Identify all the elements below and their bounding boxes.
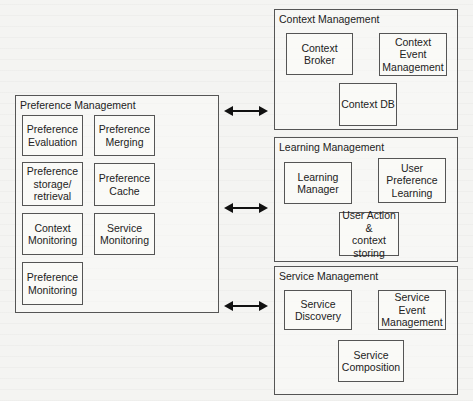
bidirectional-arrow-icon — [224, 202, 268, 214]
component-label: Preference Evaluation — [27, 123, 78, 148]
service-composition-box: Service Composition — [338, 340, 404, 382]
component-label: Service Composition — [342, 349, 400, 374]
component-label: Service Event Management — [380, 291, 444, 329]
component-label: Learning Manager — [297, 171, 338, 196]
component-label: Context DB — [341, 98, 395, 111]
component-label: Preference Cache — [99, 172, 150, 197]
service-monitoring-box: Service Monitoring — [94, 213, 155, 255]
learning-manager-box: Learning Manager — [284, 162, 352, 204]
component-label: Preference Monitoring — [27, 271, 78, 296]
context-broker-box: Context Broker — [286, 33, 353, 75]
component-label: Preference storage/ retrieval — [27, 165, 78, 203]
preference-evaluation-box: Preference Evaluation — [22, 115, 83, 156]
preference-merging-box: Preference Merging — [94, 115, 155, 156]
component-label: Context Event Management — [381, 36, 445, 74]
group-title: Learning Management — [279, 141, 384, 153]
context-event-management-box: Context Event Management — [379, 33, 447, 76]
user-preference-learning-box: User Preference Learning — [378, 158, 446, 203]
group-title: Service Management — [279, 270, 378, 282]
bidirectional-arrow-icon — [224, 105, 268, 117]
bidirectional-arrow-icon — [224, 300, 268, 312]
preference-cache-box: Preference Cache — [94, 163, 155, 206]
component-label: Service Discovery — [295, 298, 341, 323]
context-monitoring-box: Context Monitoring — [22, 213, 83, 255]
group-title: Preference Management — [20, 99, 136, 111]
group-title: Context Management — [279, 13, 379, 25]
component-label: Context Broker — [301, 42, 337, 67]
context-db-box: Context DB — [339, 83, 397, 126]
user-action-context-storing-box: User Action & context storing — [339, 212, 399, 256]
component-label: Preference Merging — [99, 123, 150, 148]
service-event-management-box: Service Event Management — [378, 290, 446, 330]
preference-storage-retrieval-box: Preference storage/ retrieval — [22, 162, 83, 206]
component-label: Service Monitoring — [100, 222, 149, 247]
component-label: Context Monitoring — [28, 222, 77, 247]
service-discovery-box: Service Discovery — [284, 290, 352, 330]
component-label: User Action & context storing — [341, 209, 397, 259]
component-label: User Preference Learning — [386, 162, 437, 200]
preference-monitoring-box: Preference Monitoring — [22, 262, 83, 305]
